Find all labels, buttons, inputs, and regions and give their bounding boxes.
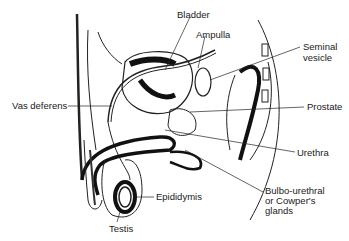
label-vas-deferens: Vas deferens bbox=[12, 101, 67, 111]
label-urethra: Urethra bbox=[297, 148, 329, 158]
label-seminal-vesicle-line1: Seminal bbox=[303, 42, 337, 52]
label-bulbo-urethral-line3: glands bbox=[265, 206, 293, 216]
label-epididymis: Epididymis bbox=[156, 192, 202, 202]
label-seminal-vesicle-line2: vesicle bbox=[303, 53, 332, 63]
label-prostate: Prostate bbox=[307, 102, 342, 112]
label-ampulla: Ampulla bbox=[196, 30, 230, 40]
label-bladder: Bladder bbox=[177, 10, 210, 20]
label-testis: Testis bbox=[109, 224, 133, 234]
